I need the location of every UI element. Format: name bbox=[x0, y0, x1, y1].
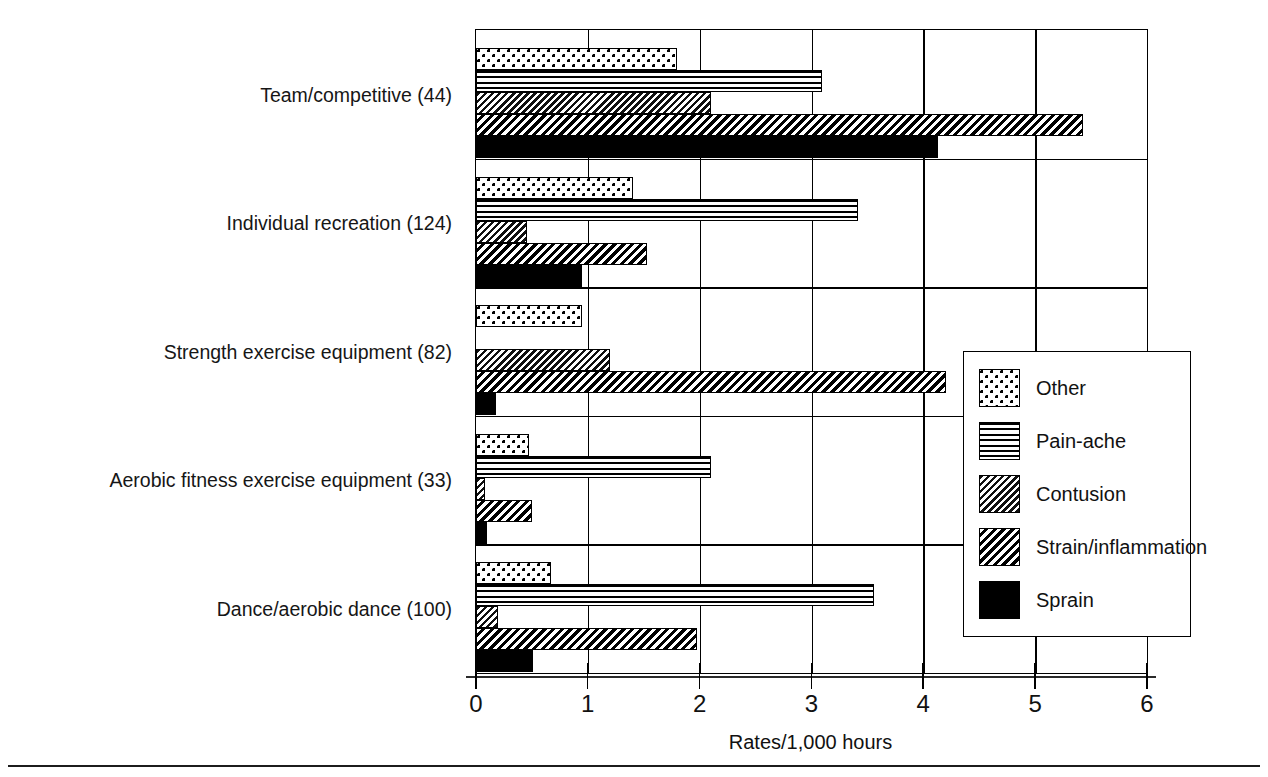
bar-aerobic-fitness-equipment-contusion bbox=[476, 478, 485, 500]
legend-swatch-sprain-icon bbox=[979, 581, 1020, 619]
x-tick-0 bbox=[475, 663, 477, 689]
legend-swatch-strain-inflammation-icon bbox=[979, 528, 1020, 566]
bar-group-individual-recreation bbox=[476, 159, 1147, 288]
legend-item-sprain: Sprain bbox=[979, 580, 1094, 620]
x-axis-title: Rates/1,000 hours bbox=[475, 731, 1146, 754]
legend-label-pain-ache: Pain-ache bbox=[1036, 430, 1126, 453]
page-footer-rule bbox=[8, 765, 1260, 767]
bar-team-competitive-strain-inflammation bbox=[476, 114, 1083, 136]
legend-item-pain-ache: Pain-ache bbox=[979, 421, 1126, 461]
bar-aerobic-fitness-equipment-sprain bbox=[476, 522, 487, 544]
category-label-dance-aerobic-dance: Dance/aerobic dance (100) bbox=[0, 600, 452, 620]
category-label-strength-exercise-equipment: Strength exercise equipment (82) bbox=[0, 343, 452, 363]
legend-label-contusion: Contusion bbox=[1036, 483, 1126, 506]
bar-individual-recreation-contusion bbox=[476, 221, 527, 243]
bar-team-competitive-contusion bbox=[476, 92, 711, 114]
injury-rate-bar-chart: Team/competitive (44) Individual recreat… bbox=[0, 0, 1268, 777]
bar-strength-exercise-equipment-sprain bbox=[476, 393, 496, 415]
bar-aerobic-fitness-equipment-other bbox=[476, 434, 529, 456]
legend-label-other: Other bbox=[1036, 377, 1086, 400]
legend-label-strain-inflammation: Strain/inflammation bbox=[1036, 536, 1207, 559]
bar-strength-exercise-equipment-contusion bbox=[476, 349, 610, 371]
bar-team-competitive-sprain bbox=[476, 136, 938, 158]
x-tick-label-1: 1 bbox=[568, 692, 608, 716]
legend-swatch-contusion-icon bbox=[979, 475, 1020, 513]
legend-label-sprain: Sprain bbox=[1036, 589, 1094, 612]
bar-dance-aerobic-dance-pain-ache bbox=[476, 584, 874, 606]
category-label-individual-recreation: Individual recreation (124) bbox=[0, 214, 452, 234]
x-tick-label-5: 5 bbox=[1015, 692, 1055, 716]
legend-item-other: Other bbox=[979, 368, 1086, 408]
bar-dance-aerobic-dance-other bbox=[476, 562, 551, 584]
x-tick-5 bbox=[1034, 663, 1036, 689]
x-tick-label-4: 4 bbox=[903, 692, 943, 716]
bar-group-team-competitive bbox=[476, 30, 1147, 159]
legend-item-strain-inflammation: Strain/inflammation bbox=[979, 527, 1207, 567]
x-tick-label-3: 3 bbox=[792, 692, 832, 716]
bar-dance-aerobic-dance-contusion bbox=[476, 606, 498, 628]
legend-item-contusion: Contusion bbox=[979, 474, 1126, 514]
x-tick-4 bbox=[922, 663, 924, 689]
bar-dance-aerobic-dance-sprain bbox=[476, 650, 533, 672]
legend-swatch-other-icon bbox=[979, 369, 1020, 407]
bar-individual-recreation-pain-ache bbox=[476, 199, 858, 221]
bar-team-competitive-other bbox=[476, 48, 677, 70]
x-tick-label-6: 6 bbox=[1127, 692, 1167, 716]
bar-individual-recreation-strain-inflammation bbox=[476, 243, 647, 265]
bar-individual-recreation-other bbox=[476, 177, 633, 199]
x-tick-label-2: 2 bbox=[680, 692, 720, 716]
bar-aerobic-fitness-equipment-pain-ache bbox=[476, 456, 711, 478]
x-tick-label-0: 0 bbox=[456, 692, 496, 716]
chart-legend: Other Pain-ache Contusion Strain/inflamm… bbox=[963, 351, 1191, 637]
x-tick-3 bbox=[811, 663, 813, 689]
x-tick-1 bbox=[587, 663, 589, 689]
bar-dance-aerobic-dance-strain-inflammation bbox=[476, 628, 697, 650]
legend-swatch-pain-ache-icon bbox=[979, 422, 1020, 460]
x-tick-6 bbox=[1146, 663, 1148, 689]
bar-team-competitive-pain-ache bbox=[476, 70, 822, 92]
bar-individual-recreation-sprain bbox=[476, 265, 582, 287]
x-tick-2 bbox=[699, 663, 701, 689]
bar-aerobic-fitness-equipment-strain-inflammation bbox=[476, 500, 532, 522]
category-label-team-competitive: Team/competitive (44) bbox=[0, 86, 452, 106]
bar-strength-exercise-equipment-strain-inflammation bbox=[476, 371, 946, 393]
category-label-aerobic-fitness-equipment: Aerobic fitness exercise equipment (33) bbox=[0, 471, 452, 491]
bar-strength-exercise-equipment-other bbox=[476, 305, 582, 327]
